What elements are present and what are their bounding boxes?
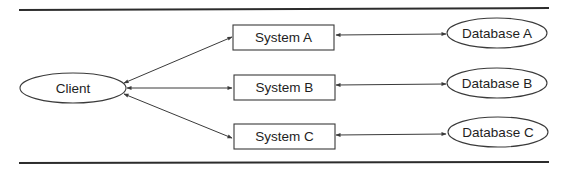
architecture-diagram: Client System A System B System C Databa… [0,0,566,170]
database-a-node: Database A [447,18,547,48]
database-a-label: Database A [462,26,532,41]
edge-system-a-database-a [336,34,446,35]
top-rule [19,8,549,10]
database-b-label: Database B [462,76,533,91]
database-c-label: Database C [462,125,534,140]
database-b-node: Database B [447,68,547,98]
client-label: Client [56,81,91,96]
system-a-node: System A [233,25,334,50]
system-b-node: System B [234,75,335,100]
edge-client-system-a [124,37,232,83]
system-b-label: System B [256,80,314,95]
edge-client-system-c [124,94,232,138]
edge-system-c-database-c [336,134,446,135]
system-c-label: System C [255,129,314,144]
bottom-rule [19,162,549,163]
system-c-node: System C [234,124,335,149]
edge-system-b-database-b [336,84,446,85]
database-c-node: Database C [448,117,548,147]
client-node: Client [20,73,126,103]
system-a-label: System A [255,30,312,45]
